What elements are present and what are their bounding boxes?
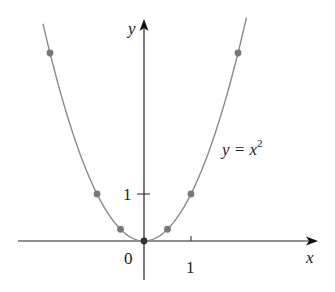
parabola-chart: y x 0 1 1 y = x2	[0, 0, 335, 292]
data-point	[94, 191, 101, 198]
function-label-exponent: 2	[257, 137, 263, 149]
x-tick-label-1: 1	[186, 258, 195, 277]
data-point	[117, 226, 124, 233]
y-tick-label-1: 1	[123, 185, 132, 204]
function-label-text: y = x	[220, 140, 258, 159]
data-point	[188, 191, 195, 198]
origin-label: 0	[124, 249, 133, 268]
function-label: y = x2	[220, 137, 263, 159]
x-axis-label: x	[305, 248, 314, 267]
data-point	[141, 238, 148, 245]
parabola-curve	[43, 18, 247, 241]
data-point	[164, 226, 171, 233]
data-point	[235, 50, 242, 57]
data-point	[47, 50, 54, 57]
y-axis-label: y	[126, 19, 136, 38]
